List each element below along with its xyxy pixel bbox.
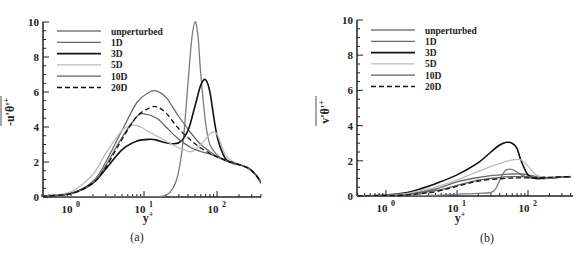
y-tick-label: 0 [348,190,354,202]
legend-label: 10D [111,72,128,82]
series-line-unperturbed [358,169,571,196]
x-axis-title: y+ [143,210,154,225]
x-tick-label: 10 [62,203,74,215]
figure: 0246810100101102unperturbed1D3D5D10D20D-… [0,0,585,261]
x-tick-exponent: 2 [222,200,226,209]
panel-caption: (a) [130,230,143,244]
y-tick-label: 6 [348,84,354,96]
legend-label: unperturbed [425,26,477,36]
chart-panel-b: 0246810100101102unperturbed1D3D5D10D20Dv… [316,14,573,245]
legend-label: 1D [425,37,437,47]
x-axis-title: y+ [455,210,466,225]
y-tick-label: 6 [34,86,40,98]
x-tick-exponent: 0 [391,199,395,208]
legend-label: 5D [111,60,123,70]
y-axis-title: -u'θ'+ [2,97,17,126]
legend-label: 3D [425,48,437,58]
legend-label: 20D [111,83,128,93]
legend-label: 3D [111,49,123,59]
x-tick-exponent: 0 [76,200,80,209]
series-line-10d [358,177,571,196]
y-tick-label: 8 [348,49,354,61]
series-group [358,142,571,196]
x-tick-exponent: 1 [149,200,153,209]
legend: unperturbed1D3D5D10D20D [371,26,477,93]
series-line-unperturbed [42,22,261,197]
legend: unperturbed1D3D5D10D20D [57,27,163,94]
legend-label: 5D [425,59,437,69]
legend-label: 20D [425,82,442,92]
y-tick-label: 0 [34,191,40,203]
x-tick-label: 10 [377,202,389,214]
series-line-10d [42,114,261,197]
legend-label: 10D [425,71,442,81]
series-group [42,22,261,197]
y-tick-label: 10 [28,16,40,28]
legend-label: 1D [111,38,123,48]
legend-label: unperturbed [111,27,163,37]
series-line-20d [358,177,571,196]
x-tick-exponent: 2 [533,199,537,208]
y-tick-label: 4 [348,120,354,132]
series-line-1d [42,91,261,197]
series-line-3d [358,142,571,196]
y-tick-label: 2 [34,156,40,168]
panel-caption: (b) [480,231,494,245]
series-line-20d [42,106,261,196]
x-tick-exponent: 1 [462,199,466,208]
x-tick-label: 10 [208,203,220,215]
y-tick-label: 4 [34,121,40,133]
x-tick-label: 10 [519,202,531,214]
y-axis-title: v'θ'+ [317,100,332,124]
y-tick-label: 8 [34,51,40,63]
series-line-3d [42,79,261,196]
y-tick-label: 10 [342,14,354,26]
chart-panel-a: 0246810100101102unperturbed1D3D5D10D20D-… [1,16,261,244]
y-tick-label: 2 [348,155,354,167]
